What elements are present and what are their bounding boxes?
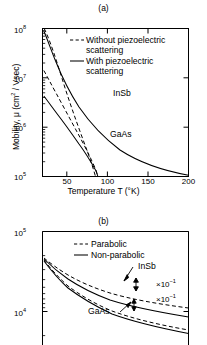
legend-label-without-piezo-line1: Without piezoelectric [86,35,165,45]
legend-label-nonparabolic: Non-parabolic [91,250,145,260]
legend-label-with-piezo-line1: With piezoelectric [86,56,153,66]
panel-b-annotation-scale-insb: ×10−1 [156,278,176,289]
legend-label-parabolic: Parabolic [91,239,127,249]
panel-b-legend-keys [74,244,88,255]
panel-a-legend-keys [0,0,207,205]
panel-a-label-insb: InSb [113,88,131,98]
panel-a-label-gaas: GaAs [110,129,132,139]
panel-b-label-insb: InSb [138,261,156,271]
panel-b-ytick-1e5: 105 [14,227,26,238]
legend-label-with-piezo-line2: scattering [86,66,123,76]
panel-b-label-gaas: GaAs [88,306,110,316]
panel-b-ytick-1e4: 104 [14,307,26,318]
panel-b-plot [0,205,207,345]
panel-b: (b) [0,205,207,345]
panel-b-annotation-arrows [120,267,138,312]
panel-a: (a) [0,0,207,205]
legend-label-without-piezo-line2: scattering [86,45,123,55]
panel-b-annotation-scale-gaas: ×10−1 [156,293,176,304]
